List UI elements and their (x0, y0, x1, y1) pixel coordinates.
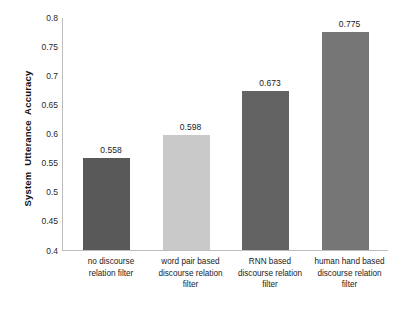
y-tick-label: 0.7 (22, 72, 58, 81)
y-tick-label: 0.75 (22, 43, 58, 52)
bar-slot: 0.598 (152, 18, 230, 250)
category-label: no discourse relation filter (70, 256, 152, 279)
category-label: RNN based discourse relation filter (229, 256, 311, 291)
y-tick-label: 0.6 (22, 130, 58, 139)
bar-value-label: 0.598 (152, 123, 230, 132)
y-tick-label: 0.45 (22, 217, 58, 226)
bar[interactable] (242, 91, 289, 250)
bar-slot: 0.673 (231, 18, 309, 250)
category-label: word pair based discourse relation filte… (150, 256, 232, 291)
x-axis-line (62, 250, 388, 251)
y-tick-label: 0.5 (22, 188, 58, 197)
bar[interactable] (322, 32, 369, 250)
y-tick-label: 0.55 (22, 159, 58, 168)
y-tick-label: 0.65 (22, 101, 58, 110)
bar-chart: System Utterance Accuracy 0.8 0.75 0.7 0… (0, 0, 394, 310)
bar-value-label: 0.775 (311, 20, 389, 29)
y-tick-label: 0.4 (22, 247, 58, 256)
bar-slot: 0.558 (72, 18, 150, 250)
bar-slot: 0.775 (311, 18, 389, 250)
bar-value-label: 0.673 (231, 79, 309, 88)
category-label: human hand based discourse relation filt… (309, 256, 391, 291)
bar-value-label: 0.558 (72, 146, 150, 155)
bar[interactable] (83, 158, 130, 250)
plot-area: 0.558 0.598 0.673 0.775 (62, 18, 388, 251)
x-axis-category-labels: no discourse relation filter word pair b… (62, 256, 388, 310)
y-tick-label: 0.8 (22, 14, 58, 23)
bar[interactable] (163, 135, 210, 250)
y-axis-line (62, 18, 63, 251)
y-axis-tick-labels: 0.8 0.75 0.7 0.65 0.6 0.55 0.5 0.45 0.4 (20, 0, 58, 310)
